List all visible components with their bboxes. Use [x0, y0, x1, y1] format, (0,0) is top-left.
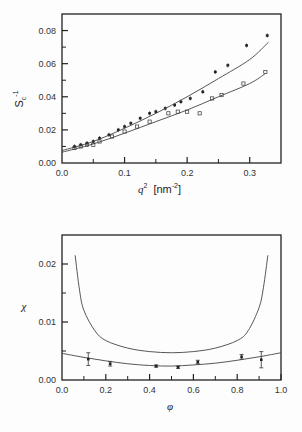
- y-tick-label: 0.01: [38, 317, 56, 327]
- x-tick-label: 0.0: [56, 168, 69, 178]
- data-point-filled: [139, 117, 142, 119]
- data-point-open: [242, 82, 245, 85]
- x-tick-label: 0.2: [181, 168, 194, 178]
- data-point-open: [135, 125, 138, 128]
- bottom-chart-chi-vs-phi: 0.00.20.40.60.81.00.000.010.02: [38, 235, 287, 395]
- figure: 0.00.10.20.30.000.020.040.060.08 0.00.20…: [0, 0, 302, 432]
- curve-line: [62, 42, 268, 150]
- data-point-open: [264, 70, 267, 73]
- x-tick-label: 1.0: [275, 385, 288, 395]
- data-point-filled: [245, 44, 248, 46]
- bottom-x-axis-label: φ: [167, 400, 173, 412]
- data-point: [109, 362, 112, 365]
- data-point-filled: [201, 91, 204, 93]
- data-point: [87, 358, 90, 361]
- x-tick-label: 0.3: [243, 168, 256, 178]
- x-tick-label: 0.2: [100, 385, 113, 395]
- data-point: [155, 365, 158, 368]
- data-point: [260, 358, 263, 361]
- data-point-filled: [129, 122, 132, 124]
- x-tick-label: 0.8: [231, 385, 244, 395]
- data-point: [196, 361, 199, 364]
- y-tick-label: 0.06: [38, 59, 56, 69]
- data-point: [240, 356, 243, 359]
- y-tick-label: 0.02: [38, 259, 56, 269]
- x-tick-label: 0.1: [118, 168, 131, 178]
- data-point-open: [167, 112, 170, 115]
- y-tick-label: 0.00: [38, 375, 56, 385]
- data-point-open: [148, 120, 151, 123]
- curve-line: [62, 353, 281, 366]
- top-chart-scattering: 0.00.10.20.30.000.020.040.060.08: [38, 14, 281, 178]
- data-point-filled: [214, 71, 217, 73]
- data-point-filled: [226, 64, 229, 66]
- data-point-filled: [266, 34, 269, 36]
- top-y-axis-label: Sc-1: [12, 90, 27, 107]
- data-point-open: [198, 112, 201, 115]
- x-tick-label: 0.4: [143, 385, 156, 395]
- y-tick-label: 0.02: [38, 125, 56, 135]
- y-tick-label: 0.08: [38, 26, 56, 36]
- x-tick-label: 0.6: [187, 385, 200, 395]
- curve-line: [75, 255, 268, 352]
- data-point: [177, 366, 180, 369]
- top-x-axis-label: q2[nm-2]: [138, 182, 181, 195]
- y-tick-label: 0.00: [38, 158, 56, 168]
- x-tick-label: 0.0: [56, 385, 69, 395]
- y-tick-label: 0.04: [38, 92, 56, 102]
- data-point-filled: [148, 112, 151, 114]
- data-point-filled: [189, 97, 192, 99]
- bottom-y-axis-label: χ: [21, 300, 28, 312]
